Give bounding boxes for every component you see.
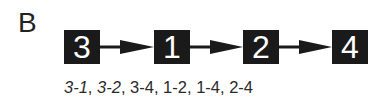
node-3: 3: [64, 30, 100, 64]
pair-item: 3-4: [130, 78, 154, 96]
arrow-right-icon: [279, 39, 332, 55]
pair-item: 3-2: [97, 78, 121, 96]
separator: ,: [154, 78, 163, 96]
pair-item: 1-4: [196, 78, 220, 96]
pair-item: 3-1: [64, 78, 88, 96]
separator: ,: [88, 78, 97, 96]
pair-list: 3-1, 3-2, 3-4, 1-2, 1-4, 2-4: [64, 77, 253, 97]
node-4: 4: [332, 30, 368, 64]
pair-item: 1-2: [163, 78, 187, 96]
separator: ,: [121, 78, 130, 96]
arrow-right-icon: [100, 39, 154, 55]
node-1: 1: [154, 30, 190, 64]
arrow-right-icon: [190, 39, 243, 55]
separator: ,: [220, 78, 229, 96]
panel-label: B: [18, 8, 37, 38]
node-2: 2: [243, 30, 279, 64]
separator: ,: [187, 78, 196, 96]
pair-item: 2-4: [229, 78, 253, 96]
